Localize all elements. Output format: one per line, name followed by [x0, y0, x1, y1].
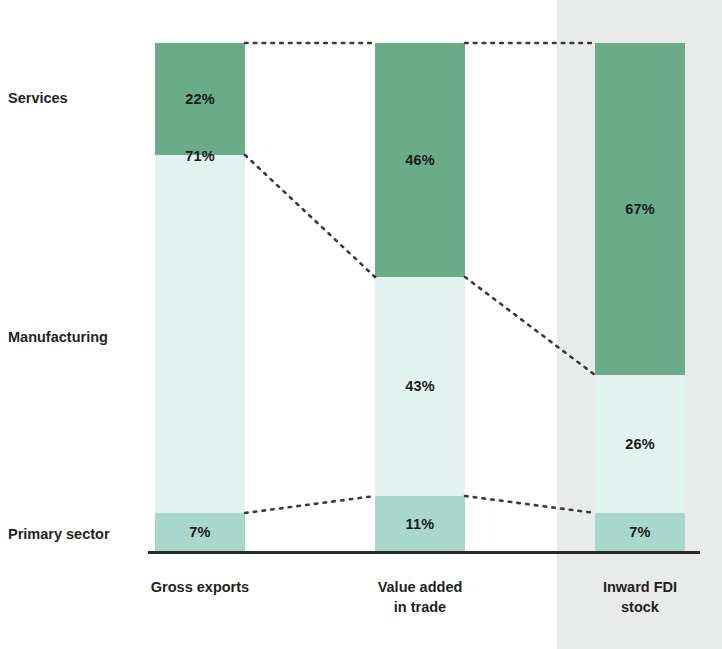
- bar-segment-value-added-manufacturing[interactable]: 43%: [375, 277, 465, 496]
- category-label-line2: stock: [560, 598, 720, 618]
- bar-value-added-in-trade[interactable]: 46% 43% 11%: [375, 43, 465, 552]
- category-label-inward-fdi-stock: Inward FDI stock: [560, 578, 720, 617]
- category-label-line1: Gross exports: [120, 578, 280, 598]
- x-axis-line: [148, 551, 700, 554]
- bar-segment-value: 67%: [625, 202, 655, 217]
- bar-segment-value: 7%: [189, 525, 210, 540]
- bar-segment-inward-fdi-services[interactable]: 67%: [595, 43, 685, 375]
- connector-primary-top-2: [465, 496, 595, 513]
- bar-segment-value: 22%: [185, 92, 215, 107]
- bar-segment-value: 26%: [625, 437, 655, 452]
- bar-segment-value: 11%: [406, 517, 435, 532]
- bar-segment-value: 7%: [629, 525, 650, 540]
- bar-inward-fdi-stock[interactable]: 67% 26% 7%: [595, 43, 685, 552]
- bar-segment-inward-fdi-primary[interactable]: 7%: [595, 513, 685, 552]
- category-label-line2: in trade: [340, 598, 500, 618]
- connector-services-bottom-1: [245, 155, 375, 277]
- bar-segment-value: 71%: [185, 149, 215, 164]
- category-label-value-added-in-trade: Value added in trade: [340, 578, 500, 617]
- connector-services-bottom-2: [465, 277, 595, 375]
- row-label-primary-sector: Primary sector: [8, 527, 110, 542]
- bar-segment-gross-exports-primary[interactable]: 7%: [155, 513, 245, 552]
- row-label-manufacturing: Manufacturing: [8, 330, 108, 345]
- plot-area: Services Manufacturing Primary sector 22…: [0, 0, 722, 649]
- category-label-line1: Inward FDI: [560, 578, 720, 598]
- bar-segment-value-added-services[interactable]: 46%: [375, 43, 465, 277]
- stacked-bar-chart-figure: Services Manufacturing Primary sector 22…: [0, 0, 722, 649]
- category-label-gross-exports: Gross exports: [120, 578, 280, 598]
- bar-segment-value: 46%: [405, 153, 435, 168]
- bar-segment-gross-exports-services[interactable]: 22%: [155, 43, 245, 155]
- bar-gross-exports[interactable]: 22% 71% 7%: [155, 43, 245, 552]
- bar-segment-gross-exports-manufacturing[interactable]: 71%: [155, 155, 245, 513]
- category-label-line1: Value added: [340, 578, 500, 598]
- row-label-services: Services: [8, 91, 68, 106]
- bar-segment-inward-fdi-manufacturing[interactable]: 26%: [595, 375, 685, 513]
- connector-primary-top-1: [245, 496, 375, 513]
- bar-segment-value-added-primary[interactable]: 11%: [375, 496, 465, 552]
- bar-segment-value: 43%: [405, 379, 435, 394]
